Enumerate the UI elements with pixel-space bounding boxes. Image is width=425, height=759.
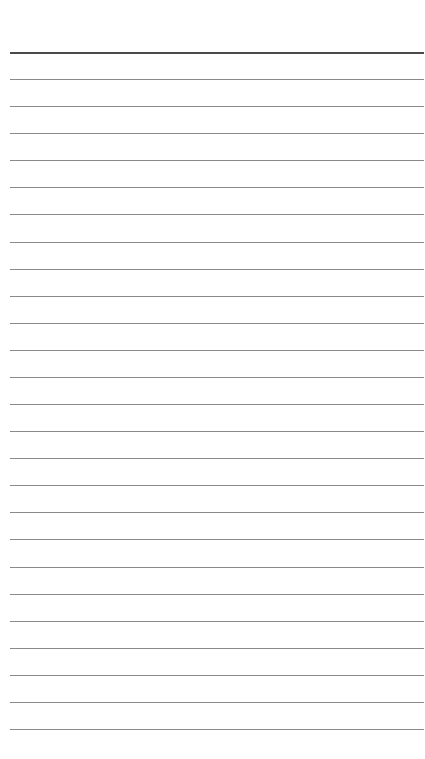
header-rule-line [10,52,424,54]
ruled-line [10,431,424,432]
ruled-line [10,296,424,297]
ruled-line [10,160,424,161]
ruled-line [10,458,424,459]
ruled-line [10,621,424,622]
ruled-line [10,404,424,405]
ruled-line [10,702,424,703]
ruled-line [10,79,424,80]
ruled-line [10,377,424,378]
ruled-line [10,214,424,215]
lined-page [0,0,425,759]
ruled-line [10,187,424,188]
ruled-line [10,133,424,134]
ruled-line [10,350,424,351]
ruled-line [10,648,424,649]
ruled-line [10,512,424,513]
ruled-line [10,323,424,324]
ruled-line [10,106,424,107]
ruled-line [10,539,424,540]
ruled-line [10,269,424,270]
ruled-line [10,594,424,595]
ruled-line [10,567,424,568]
ruled-line [10,675,424,676]
ruled-line [10,485,424,486]
ruled-line [10,242,424,243]
ruled-line [10,729,424,730]
